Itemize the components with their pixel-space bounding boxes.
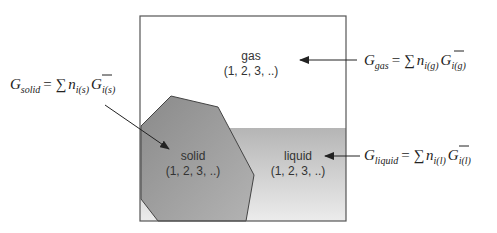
- liquid-components: (1, 2, 3, ..): [271, 164, 326, 178]
- solid-components: (1, 2, 3, ..): [166, 164, 221, 178]
- gas-label: gas: [241, 49, 260, 63]
- solid-label: solid: [181, 149, 206, 163]
- liquid-equation: Gliquid= ∑ni(l)Gi(l): [364, 146, 472, 167]
- gas-equation: Ggas= ∑ni(g)Gi(g): [364, 51, 467, 72]
- liquid-label: liquid: [284, 149, 312, 163]
- svg-text:Gsolid= ∑ni(s)Gi(s): Gsolid= ∑ni(s)Gi(s): [10, 76, 116, 96]
- solid-equation: Gsolid= ∑ni(s)Gi(s): [10, 75, 116, 96]
- svg-text:Ggas= ∑ni(g)Gi(g): Ggas= ∑ni(g)Gi(g): [364, 52, 467, 72]
- gas-components: (1, 2, 3, ..): [224, 64, 279, 78]
- svg-text:Gliquid= ∑ni(l)Gi(l): Gliquid= ∑ni(l)Gi(l): [364, 147, 472, 167]
- phase-diagram: gas (1, 2, 3, ..) solid (1, 2, 3, ..) li…: [0, 0, 497, 233]
